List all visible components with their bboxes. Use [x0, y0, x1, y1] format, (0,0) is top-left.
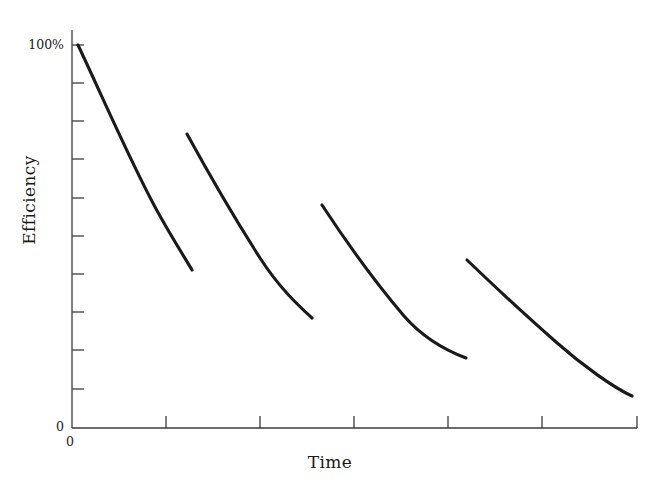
decay-curve-cycle-3: [322, 205, 466, 358]
y-axis-top-tick-label: 100%: [16, 37, 64, 52]
efficiency-vs-time-chart: 100% 0 0 Time Efficiency: [0, 0, 660, 484]
x-axis-title: Time: [0, 452, 660, 472]
decay-curve-cycle-1: [78, 45, 192, 270]
x-axis-origin-tick-label: 0: [60, 434, 80, 449]
chart-plot-area: [0, 0, 660, 484]
decay-curve-cycle-2: [187, 134, 312, 318]
y-axis-bottom-tick-label: 0: [36, 419, 64, 434]
y-axis-title-wrapper: Efficiency: [19, 115, 39, 285]
x-axis-ticks: [166, 416, 637, 428]
y-axis-ticks: [72, 45, 84, 389]
y-axis-title: Efficiency: [19, 155, 39, 245]
decay-curve-cycle-4: [467, 260, 632, 396]
decay-curves: [78, 45, 632, 396]
